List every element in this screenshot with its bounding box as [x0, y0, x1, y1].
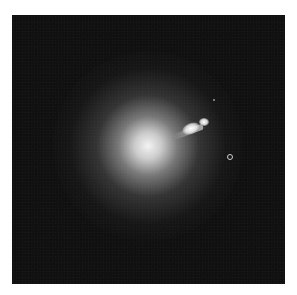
jet-knot-2 — [199, 118, 209, 126]
faint-dot — [213, 99, 215, 101]
astronomical-image — [12, 15, 285, 284]
ring-object — [227, 154, 233, 160]
